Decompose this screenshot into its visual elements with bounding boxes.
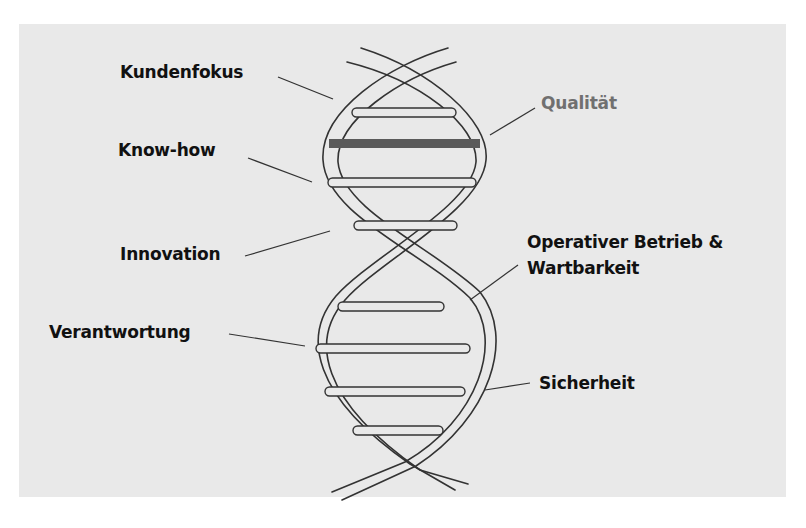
label-operativ-line1: Operativer Betrieb & [527, 232, 723, 252]
leader-verantwortung [229, 334, 305, 346]
label-qualitaet: Qualität [541, 93, 617, 113]
label-kundenfokus: Kundenfokus [120, 62, 243, 82]
rung-4 [354, 221, 457, 230]
label-operativ-line2: Wartbarkeit [527, 258, 639, 278]
leader-know-how [248, 158, 312, 182]
leader-qualitaet [490, 108, 535, 135]
label-sicherheit: Sicherheit [539, 373, 635, 393]
leader-innovation [245, 231, 330, 256]
rung-6 [316, 344, 470, 353]
label-know-how: Know-how [118, 140, 216, 160]
label-innovation: Innovation [120, 244, 221, 264]
rung-7 [325, 387, 465, 396]
rung-highlighted-quality [329, 139, 480, 148]
label-verantwortung: Verantwortung [49, 322, 191, 342]
rung-3 [328, 178, 476, 187]
leader-sicherheit [485, 383, 530, 390]
leader-kundenfokus [278, 77, 333, 99]
rung-8 [353, 426, 443, 435]
rung-5 [338, 302, 444, 311]
leader-operativ [470, 265, 518, 300]
rung-1 [352, 108, 456, 117]
